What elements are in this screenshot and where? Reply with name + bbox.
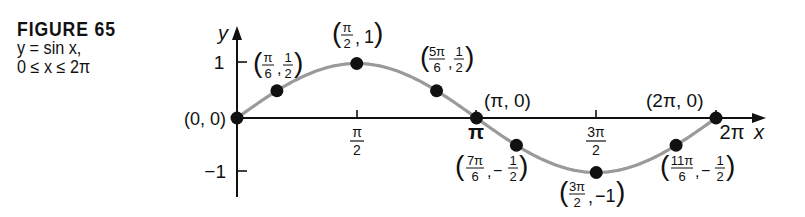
point-label-11pi-6: ( 11π 6 , − 1 2 ): [660, 150, 735, 184]
point-label-2pi-0: (2π, 0): [646, 90, 703, 111]
svg-text:(: (: [332, 17, 342, 48]
data-point: [430, 84, 443, 97]
y-axis-arrow-icon: [232, 26, 242, 40]
svg-text:2: 2: [455, 60, 462, 75]
x-tick-pi: π: [468, 120, 484, 143]
y-axis-label: y: [216, 22, 229, 44]
svg-text:(: (: [253, 47, 263, 78]
svg-text:): ): [726, 150, 735, 181]
data-point: [270, 84, 283, 97]
svg-text:): ): [519, 150, 528, 181]
svg-text:,: ,: [487, 163, 491, 180]
svg-text:,: ,: [695, 163, 699, 180]
svg-text:1: 1: [509, 153, 516, 168]
svg-text:−: −: [493, 162, 502, 179]
x-tick-2pi: 2π: [720, 121, 745, 143]
svg-text:2: 2: [353, 142, 361, 158]
sine-chart: y x 1 −1 π 2 π 3π 2 2π (0, 0) ( π 6 , 1 …: [0, 0, 805, 217]
svg-text:1: 1: [716, 153, 723, 168]
svg-text:(: (: [559, 176, 569, 207]
point-label-5pi-6: ( 5π 6 , 1 2 ): [420, 41, 474, 75]
x-axis-label: x: [753, 121, 765, 143]
data-point: [350, 57, 363, 70]
svg-text:3π: 3π: [587, 124, 605, 140]
data-point: [231, 112, 244, 125]
svg-text:5π: 5π: [429, 44, 445, 59]
svg-text:): ): [294, 47, 303, 78]
svg-text:11π: 11π: [671, 153, 693, 168]
svg-text:): ): [374, 17, 383, 48]
svg-text:,: ,: [448, 54, 452, 71]
svg-text:2: 2: [592, 142, 600, 158]
svg-text:−: −: [701, 162, 710, 179]
point-label-pi-0: (π, 0): [484, 90, 531, 111]
point-label-pi-2: ( π 2 , 1 ): [332, 17, 383, 51]
svg-text:6: 6: [264, 66, 271, 81]
y-tick-1: 1: [214, 52, 225, 73]
svg-text:,: ,: [588, 187, 593, 207]
point-label-0-0: (0, 0): [184, 109, 226, 129]
svg-text:(: (: [455, 150, 465, 181]
svg-text:−1: −1: [595, 186, 616, 206]
point-label-pi-6: ( π 6 , 1 2 ): [253, 47, 303, 81]
svg-text:2: 2: [284, 66, 291, 81]
svg-text:1: 1: [455, 44, 462, 59]
svg-text:1: 1: [284, 50, 291, 65]
svg-text:6: 6: [433, 60, 440, 75]
svg-text:,: ,: [277, 60, 281, 77]
point-label-7pi-6: ( 7π 6 , − 1 2 ): [455, 150, 528, 184]
x-tick-3pi-half: 3π 2: [586, 124, 606, 158]
svg-text:2: 2: [573, 195, 580, 210]
svg-text:(: (: [660, 150, 670, 181]
svg-text:): ): [616, 176, 625, 207]
svg-text:6: 6: [678, 169, 685, 184]
point-label-3pi-2: ( 3π 2 , −1 ): [559, 176, 625, 210]
svg-text:2: 2: [509, 169, 516, 184]
data-point: [670, 139, 683, 152]
svg-text:6: 6: [471, 169, 478, 184]
svg-text:3π: 3π: [569, 179, 585, 194]
svg-text:): ): [465, 41, 474, 72]
svg-text:,: ,: [355, 28, 360, 48]
svg-text:π: π: [264, 50, 273, 65]
x-tick-pi-half: π 2: [350, 124, 364, 158]
data-point: [590, 166, 603, 179]
svg-text:1: 1: [364, 27, 374, 47]
svg-text:π: π: [352, 124, 362, 140]
svg-text:π: π: [343, 20, 352, 35]
svg-text:2: 2: [343, 36, 350, 51]
svg-text:7π: 7π: [467, 153, 483, 168]
svg-text:2: 2: [716, 169, 723, 184]
y-tick-neg1: −1: [204, 161, 226, 182]
